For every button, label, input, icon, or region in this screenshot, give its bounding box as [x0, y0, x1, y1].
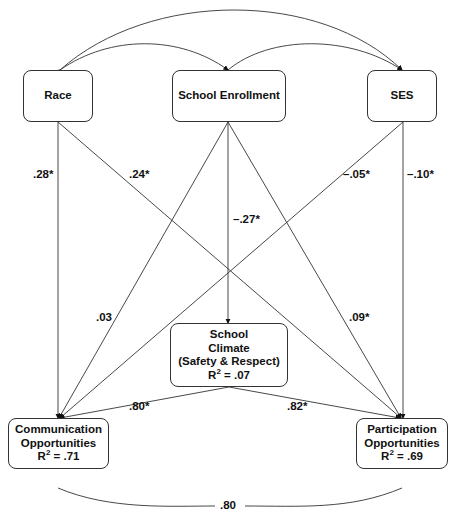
node-school-climate: School Climate (Safety & Respect) R2 = .… [170, 323, 288, 387]
climate-line2: Climate [208, 342, 250, 356]
climate-line1: School [210, 328, 248, 342]
node-enrollment-label: School Enrollment [178, 89, 280, 103]
climate-line3: (Safety & Respect) [178, 355, 280, 369]
node-school-enrollment: School Enrollment [172, 70, 286, 122]
node-race: Race [23, 70, 93, 122]
node-race-label: Race [44, 89, 72, 103]
coef-race-comm: .28* [33, 168, 53, 180]
coef-enroll-comm: .03 [96, 311, 112, 323]
node-participation-opportunities: Participation Opportunities R2 = .69 [356, 418, 448, 469]
comm-r2: R2 = .71 [38, 450, 80, 464]
coef-enroll-climate: –.27* [233, 213, 260, 225]
coef-race-part: .24* [129, 168, 149, 180]
coef-enroll-part: .09* [349, 311, 369, 323]
node-ses-label: SES [390, 89, 413, 103]
part-line2: Opportunities [364, 437, 439, 451]
coef-comm-part-covariance: .80 [220, 499, 236, 511]
climate-r2: R2 = .07 [208, 369, 250, 383]
node-ses: SES [367, 70, 437, 122]
part-line1: Participation [367, 423, 437, 437]
coef-ses-comm: –.05* [343, 168, 370, 180]
comm-line1: Communication [15, 423, 102, 437]
node-communication-opportunities: Communication Opportunities R2 = .71 [8, 418, 109, 469]
coef-climate-comm: .80* [129, 400, 149, 412]
coef-climate-part: .82* [287, 400, 307, 412]
comm-line2: Opportunities [21, 437, 96, 451]
part-r2: R2 = .69 [381, 450, 423, 464]
coef-ses-part: –.10* [407, 168, 434, 180]
